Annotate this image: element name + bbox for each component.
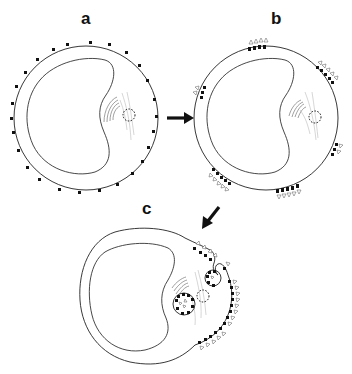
receptor-patch-left-b	[193, 86, 206, 99]
figure-canvas: a b c	[0, 0, 352, 374]
endocytic-vesicle-small	[205, 270, 221, 287]
panel-label-b: b	[271, 9, 281, 28]
golgi-apparatus-a	[104, 97, 120, 122]
panel-b-cell	[193, 38, 343, 199]
cell-membrane-a	[14, 46, 158, 190]
panel-label-a: a	[81, 9, 91, 28]
receptors-a	[10, 41, 158, 194]
nucleus-b	[207, 58, 294, 173]
arrow-b-to-c	[202, 207, 219, 229]
receptor-patch-lower-left-b	[209, 168, 231, 191]
arrow-a-to-b	[167, 112, 194, 124]
spindle-fibers-a	[120, 92, 134, 140]
panel-a-cell	[10, 41, 158, 194]
receptor-patch-top-b	[248, 38, 268, 51]
receptor-cap-c	[193, 241, 240, 350]
panel-c-cell	[80, 228, 240, 364]
nucleus-c	[89, 243, 174, 351]
endocytic-vesicle-large	[173, 293, 195, 315]
nucleus-a	[27, 58, 114, 173]
panel-label-c: c	[142, 199, 151, 218]
